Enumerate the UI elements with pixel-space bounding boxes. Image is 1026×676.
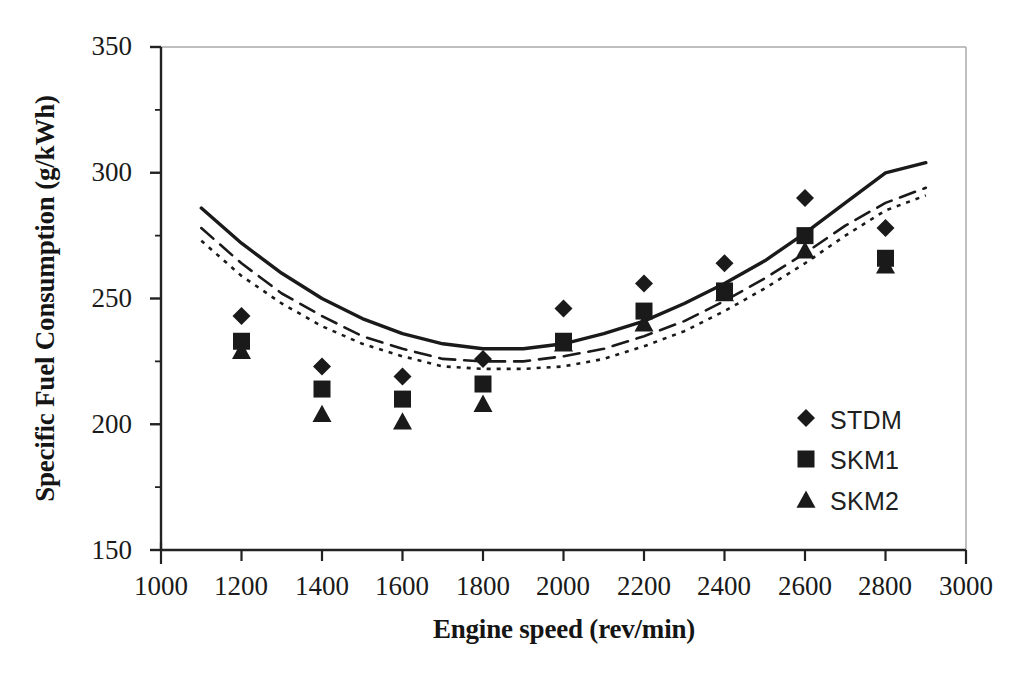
data-point-skm1-1800 bbox=[475, 376, 492, 393]
data-point-skm2-1800 bbox=[474, 395, 493, 412]
y-tick-label-150: 150 bbox=[52, 537, 132, 564]
legend-marker-stdm bbox=[797, 409, 815, 427]
legend-label-stdm: STDM bbox=[830, 406, 902, 435]
data-point-stdm-2000 bbox=[555, 300, 573, 318]
legend-label-skm1: SKM1 bbox=[830, 446, 899, 475]
y-tick-label-300: 300 bbox=[52, 159, 132, 186]
data-point-skm1-1600 bbox=[394, 391, 411, 408]
data-point-stdm-2600 bbox=[796, 189, 814, 207]
legend-label-skm2: SKM2 bbox=[830, 487, 899, 516]
y-tick-label-350: 350 bbox=[52, 33, 132, 60]
data-point-skm1-1400 bbox=[314, 381, 331, 398]
x-axis-title: Engine speed (rev/min) bbox=[161, 614, 967, 645]
data-point-stdm-2800 bbox=[877, 219, 895, 237]
legend-marker-skm1 bbox=[798, 451, 815, 468]
data-point-skm2-1600 bbox=[393, 412, 412, 429]
data-point-stdm-1400 bbox=[313, 357, 331, 375]
chart-figure: Specific Fuel Consumption (g/kWh) Engine… bbox=[0, 0, 1026, 676]
data-point-stdm-1600 bbox=[394, 368, 412, 386]
y-tick-label-200: 200 bbox=[52, 411, 132, 438]
legend-marker-skm2 bbox=[797, 491, 816, 508]
data-point-skm2-1400 bbox=[313, 405, 332, 422]
data-point-stdm-1800 bbox=[474, 350, 492, 368]
trend-line-stdm bbox=[201, 163, 926, 349]
x-tick-label-3000: 3000 bbox=[916, 573, 1016, 600]
data-point-stdm-2200 bbox=[635, 274, 653, 292]
data-point-stdm-1200 bbox=[233, 307, 251, 325]
data-point-stdm-2400 bbox=[716, 254, 734, 272]
y-tick-label-250: 250 bbox=[52, 285, 132, 312]
